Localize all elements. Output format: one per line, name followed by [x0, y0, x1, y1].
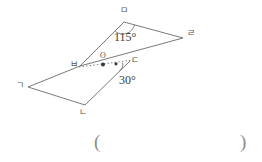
segment-g-n: [28, 87, 85, 105]
vertex-label-r: ㄹ: [187, 29, 195, 38]
left-triangle-strokes: [28, 61, 130, 105]
point-o-dot: [101, 63, 105, 67]
vertex-label-m: ㅁ: [120, 6, 128, 15]
vertex-label-d: ㄷ: [131, 56, 139, 65]
vertex-label-g: ㄱ: [16, 81, 24, 90]
angle-arc-30: [120, 63, 123, 71]
answer-open-paren: (: [94, 132, 100, 151]
angle-value-30: 30°: [119, 74, 136, 86]
vertex-label-b: ㅂ: [70, 60, 78, 69]
answer-close-paren: ): [240, 132, 246, 151]
point-label-o: O: [100, 52, 106, 60]
angle-value-115: 115°: [114, 31, 136, 43]
geometry-figure: ㄱ ㄴ ㄷ ㄹ ㅁ ㅂ O 115° 30° ( ): [0, 0, 262, 162]
segment-g-b: [28, 66, 80, 87]
vertex-label-n: ㄴ: [79, 108, 87, 117]
intersection-dot: [114, 62, 117, 65]
